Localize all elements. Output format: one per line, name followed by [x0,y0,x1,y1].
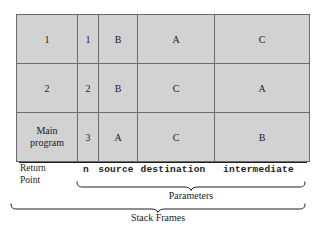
parameters-caption: Parameters [76,190,306,201]
cell-n: 3 [78,113,99,162]
cell-intermediate: A [215,64,310,113]
table-row: Main program 3 A C B [17,113,310,162]
stack-frames-figure: 1 1 B A C 2 2 B C A Main program 3 A C [0,0,319,234]
cell-source: B [99,64,138,113]
table-row: 2 2 B C A [17,64,310,113]
label-n: n [76,164,96,175]
cell-destination: C [138,64,215,113]
cell-intermediate: C [215,15,310,64]
stack-frames-caption: Stack Frames [10,212,306,223]
cell-return-point-line-2: program [17,137,77,149]
cell-n: 2 [78,64,99,113]
label-return-point-line-1: Return [20,163,74,175]
cell-destination: C [138,113,215,162]
label-return-point-line-2: Point [20,175,74,187]
cell-return-point-line-1: Main [17,125,77,137]
label-source: source [96,164,136,175]
cell-source: B [99,15,138,64]
label-intermediate: intermediate [212,164,305,175]
cell-return-point: Main program [17,113,78,162]
cell-return-point: 1 [17,15,78,64]
cell-destination: A [138,15,215,64]
table-row: 1 1 B A C [17,15,310,64]
label-destination: destination [134,164,212,175]
label-return-point: Return Point [20,163,74,187]
cell-intermediate: B [215,113,310,162]
cell-source: A [99,113,138,162]
cell-n: 1 [78,15,99,64]
stack-frames-table: 1 1 B A C 2 2 B C A Main program 3 A C [16,14,310,162]
cell-return-point: 2 [17,64,78,113]
